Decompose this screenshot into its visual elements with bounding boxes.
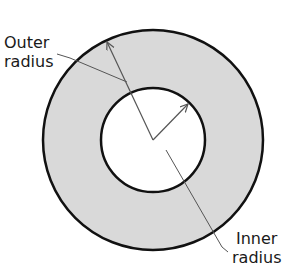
- inner-radius-label-line1: Inner: [236, 229, 277, 248]
- outer-radius-label-line2: radius: [4, 52, 53, 71]
- inner-radius-label-line2: radius: [232, 248, 281, 267]
- outer-radius-label-line1: Outer: [4, 33, 49, 52]
